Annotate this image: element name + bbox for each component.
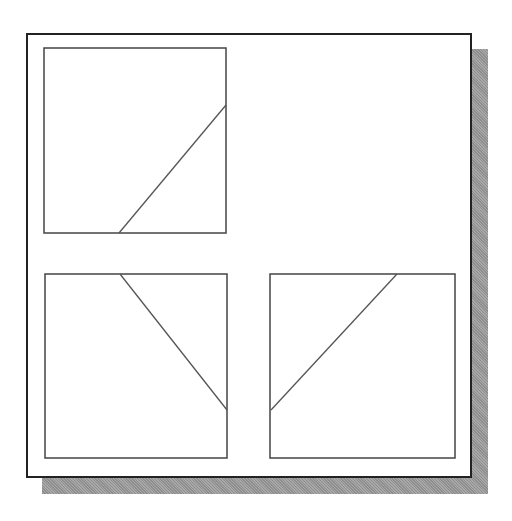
panel-top-left: [44, 48, 226, 233]
panel-bottom-left-border: [45, 274, 227, 458]
panel-bottom-right-border: [270, 274, 455, 458]
panels-canvas: [0, 0, 512, 521]
panel-bottom-right: [270, 274, 455, 458]
panel-top-left-border: [44, 48, 226, 233]
panel-bottom-left: [45, 274, 227, 458]
